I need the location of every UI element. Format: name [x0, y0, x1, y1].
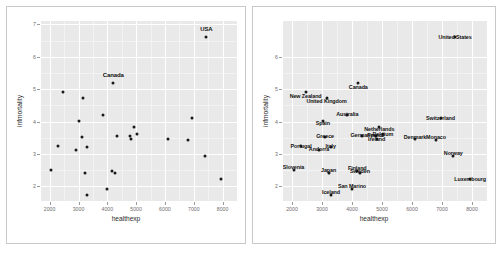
gridline-vertical: [472, 21, 473, 201]
gridline-vertical: [223, 21, 224, 201]
data-point: [135, 133, 138, 136]
gridline-vertical: [136, 21, 137, 201]
gridline-horizontal: [283, 57, 487, 58]
x-tick-label: 4000: [346, 206, 358, 212]
y-tick-label: 4: [269, 119, 278, 125]
data-point: [113, 171, 116, 174]
data-point: [81, 96, 84, 99]
point-label: Spain: [316, 120, 330, 126]
point-label: San Marino: [338, 183, 366, 189]
y-tick-label: 5: [269, 86, 278, 92]
data-point: [101, 113, 104, 116]
y-tick-label: 6: [27, 54, 36, 60]
gridline-horizontal: [41, 154, 237, 155]
x-tick-label: 3000: [73, 206, 85, 212]
data-point: [166, 138, 169, 141]
y-tick-mark: [37, 154, 40, 155]
gridline-minor-vertical: [151, 21, 152, 201]
y-tick-label: 2: [27, 183, 36, 189]
x-tick-mark: [382, 202, 383, 205]
y-tick-label: 3: [269, 151, 278, 157]
y-tick-mark: [279, 89, 282, 90]
gridline-minor-vertical: [457, 21, 458, 201]
y-tick-mark: [37, 24, 40, 25]
point-label: Italy: [326, 143, 336, 149]
y-tick-mark: [279, 122, 282, 123]
data-point: [115, 135, 118, 138]
gridline-horizontal: [41, 24, 237, 25]
gridline-vertical: [412, 21, 413, 201]
x-tick-label: 5000: [130, 206, 142, 212]
x-tick-mark: [223, 202, 224, 205]
x-tick-label: 5000: [376, 206, 388, 212]
x-tick-mark: [412, 202, 413, 205]
gridline-vertical: [442, 21, 443, 201]
x-tick-label: 4000: [102, 206, 114, 212]
gridline-minor-vertical: [179, 21, 180, 201]
point-label: Denmark: [404, 134, 426, 140]
point-label: United States: [439, 34, 472, 40]
point-label: Greece: [316, 133, 334, 139]
figure-canvas: USACanada healthexp infmortality 2000300…: [0, 0, 502, 259]
x-tick-label: 8000: [217, 206, 229, 212]
x-tick-label: 2000: [44, 206, 56, 212]
data-point: [57, 145, 60, 148]
point-label: USA: [200, 26, 212, 32]
x-tick-mark: [322, 202, 323, 205]
x-tick-label: 7000: [436, 206, 448, 212]
data-point: [129, 137, 132, 140]
data-point: [78, 120, 81, 123]
gridline-minor-horizontal: [283, 170, 487, 171]
gridline-minor-vertical: [427, 21, 428, 201]
x-tick-mark: [136, 202, 137, 205]
x-tick-mark: [472, 202, 473, 205]
point-label: Luxembourg: [454, 176, 486, 182]
data-point: [203, 154, 206, 157]
point-label: Canada: [103, 72, 124, 78]
x-tick-label: 6000: [406, 206, 418, 212]
x-tick-label: 3000: [316, 206, 328, 212]
y-tick-mark: [37, 122, 40, 123]
data-point: [80, 136, 83, 139]
data-point: [86, 194, 89, 197]
gridline-minor-vertical: [367, 21, 368, 201]
gridline-horizontal: [41, 122, 237, 123]
gridline-vertical: [382, 21, 383, 201]
gridline-minor-horizontal: [41, 138, 237, 139]
gridline-horizontal: [41, 89, 237, 90]
point-label: Australia: [336, 111, 358, 117]
gridline-horizontal: [283, 186, 487, 187]
gridline-vertical: [322, 21, 323, 201]
gridline-horizontal: [283, 89, 487, 90]
y-tick-mark: [279, 186, 282, 187]
y-tick-label: 7: [27, 21, 36, 27]
data-point: [61, 90, 64, 93]
x-tick-label: 6000: [159, 206, 171, 212]
data-point: [106, 188, 109, 191]
gridline-horizontal: [41, 186, 237, 187]
y-tick-mark: [37, 89, 40, 90]
gridline-minor-horizontal: [283, 105, 487, 106]
gridline-vertical: [292, 21, 293, 201]
gridline-minor-horizontal: [283, 73, 487, 74]
x-tick-mark: [165, 202, 166, 205]
gridline-minor-horizontal: [41, 41, 237, 42]
gridline-vertical: [79, 21, 80, 201]
y-tick-mark: [37, 186, 40, 187]
y-tick-label: 5: [27, 86, 36, 92]
gridline-minor-horizontal: [41, 170, 237, 171]
x-tick-mark: [292, 202, 293, 205]
gridline-minor-vertical: [397, 21, 398, 201]
point-label: Norway: [444, 150, 463, 156]
point-label: Canada: [349, 84, 368, 90]
data-point: [191, 116, 194, 119]
point-label: Switzerland: [426, 115, 455, 121]
gridline-vertical: [194, 21, 195, 201]
x-tick-label: 8000: [466, 206, 478, 212]
x-tick-mark: [107, 202, 108, 205]
gridline-minor-vertical: [122, 21, 123, 201]
gridline-minor-vertical: [64, 21, 65, 201]
data-point: [132, 125, 135, 128]
right-plot-area: United StatesCanadaNew ZealandUnited Kin…: [283, 21, 487, 201]
point-label: Monaco: [426, 134, 446, 140]
